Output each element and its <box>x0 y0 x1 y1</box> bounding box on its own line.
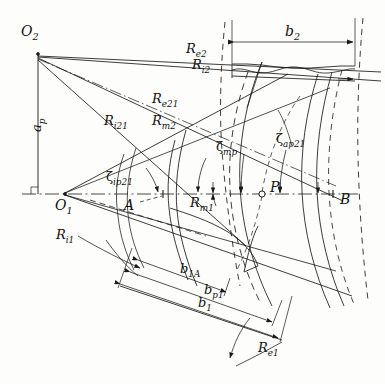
point-marker-O2 <box>37 53 40 56</box>
arc-through-P-lower <box>236 196 262 272</box>
arc-zeta-ip21 <box>146 168 158 192</box>
b1-ext-right <box>280 296 292 342</box>
blade-curve-5 <box>302 74 330 308</box>
angle-label-zeta-ap21: ζap21 <box>276 132 305 148</box>
bp1-ext-right <box>272 300 282 326</box>
blade-curve-1 <box>168 140 188 280</box>
point-label-P: P <box>270 180 279 194</box>
ray-Re21 <box>38 58 343 201</box>
angle-label-zeta-mp: ζmp <box>216 140 237 156</box>
b1A-ext-left <box>118 248 132 288</box>
point-label-B: B <box>340 192 350 206</box>
ray-O1-Ri1-dashed <box>90 200 206 236</box>
Ri1-arc <box>106 240 138 276</box>
radius-label-Re21: Re21 <box>152 92 178 108</box>
dimension-label-b1: b1 <box>198 296 212 312</box>
right-angle-marker <box>31 187 38 194</box>
radius-label-Ri1: Ri1 <box>56 228 74 244</box>
gear2-inner-face <box>232 76 355 81</box>
arc-zeta-mp <box>198 158 206 192</box>
b1A-ext-right <box>224 278 230 296</box>
point-marker-P <box>259 191 265 197</box>
radius-label-Rm2: Rm2 <box>152 114 176 130</box>
radius-label-Rm1: Rm1 <box>190 196 214 212</box>
dashed-ref-right <box>358 18 368 300</box>
point-label-A: A <box>124 198 134 212</box>
radius-label-Re1: Re1 <box>258 341 279 357</box>
A-leader <box>140 196 162 202</box>
angle-label-zeta-ip21: ζip21 <box>106 170 133 186</box>
dimension-label-ap: ap <box>30 119 46 132</box>
point-label-O1: O1 <box>55 198 73 215</box>
gear-geometry-figure: O2 O1 A B P Re2 Ri2 Re21 Ri21 Rm2 Rm1 Ri… <box>0 0 385 384</box>
point-marker-O1 <box>64 193 67 196</box>
dimension-label-b1A: b1A <box>180 262 200 278</box>
radius-label-Ri21: Ri21 <box>104 114 128 130</box>
gear2-body-edge-diag <box>247 62 262 108</box>
arc-zeta-ap21-leader <box>280 150 286 192</box>
radius-label-Ri2: Ri2 <box>192 58 210 74</box>
arc-zeta-mp-right <box>241 154 244 192</box>
point-label-O2: O2 <box>21 24 39 41</box>
blade-curve-6 <box>317 72 344 306</box>
dimension-label-b2: b2 <box>285 24 300 41</box>
radius-label-Re2: Re2 <box>186 42 207 58</box>
ray-Ri21 <box>38 60 246 246</box>
blade-curve-7-dashed <box>329 70 354 304</box>
